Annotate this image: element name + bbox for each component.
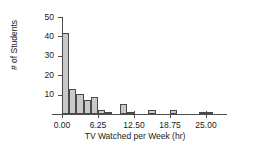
- histogram-bar: [105, 112, 112, 114]
- histogram-bar: [69, 89, 76, 114]
- y-axis-tick-label: 20: [32, 71, 54, 80]
- y-axis-tick-label: 30: [32, 51, 54, 60]
- x-axis-tick: [134, 111, 135, 118]
- histogram-bar: [91, 97, 98, 114]
- y-axis-tick-label: 10: [32, 90, 54, 99]
- histogram-bar: [98, 110, 105, 114]
- histogram-bar: [120, 104, 127, 114]
- x-axis-tick-label: 12.50: [117, 121, 151, 130]
- x-axis-title: TV Watched per Week (hr): [40, 131, 230, 141]
- histogram-bar: [76, 94, 83, 114]
- histogram-bar: [148, 110, 155, 114]
- x-axis-line: [52, 114, 227, 115]
- histogram-bar: [127, 112, 134, 114]
- x-axis-tick-label: 0.00: [45, 121, 79, 130]
- histogram-bar: [199, 112, 206, 114]
- histogram-figure: # of Students TV Watched per Week (hr) 1…: [0, 0, 253, 156]
- histogram-bar: [206, 112, 213, 114]
- y-axis-tick-label: 40: [32, 32, 54, 41]
- y-axis-tick-label: 50: [32, 13, 54, 22]
- x-axis-tick-label: 25.00: [189, 121, 223, 130]
- x-axis-tick-label: 18.75: [153, 121, 187, 130]
- x-axis-tick-label: 6.25: [81, 121, 115, 130]
- histogram-bar: [62, 33, 69, 114]
- y-axis-title: # of Students: [9, 0, 19, 95]
- histogram-bar: [170, 110, 177, 114]
- y-axis-tick: [58, 17, 62, 18]
- histogram-bar: [84, 100, 91, 114]
